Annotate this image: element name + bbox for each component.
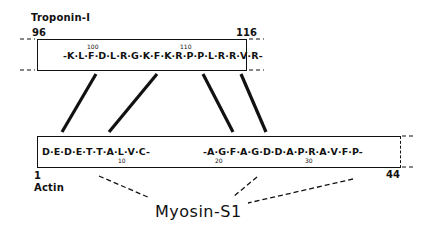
- myosin-dash-line-1: [99, 176, 150, 198]
- interaction-line-3: [203, 74, 233, 132]
- interaction-line-2: [109, 74, 157, 132]
- interaction-line-4: [241, 74, 266, 132]
- interaction-line-1: [62, 74, 96, 132]
- myosin-dash-line-3: [248, 179, 353, 203]
- connector-lines: [0, 0, 433, 231]
- myosin-dash-line-2: [233, 177, 257, 197]
